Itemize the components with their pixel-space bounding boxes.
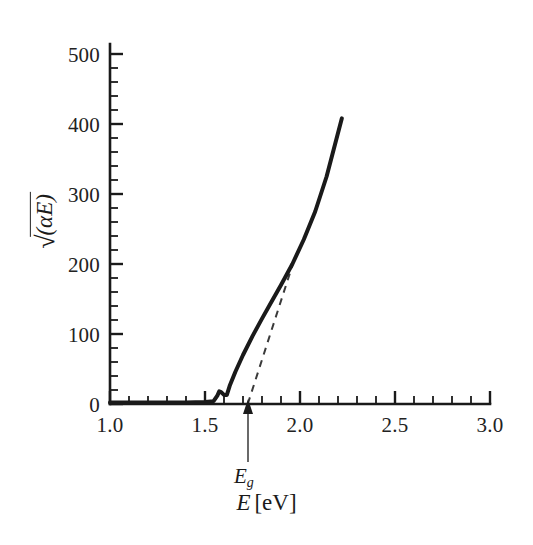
y-tick-label-500: 500 (34, 43, 100, 68)
absorption-curve-line (110, 118, 342, 402)
band-gap-label: Eg (234, 464, 254, 491)
band-gap-arrow (243, 399, 253, 462)
x-axis-title: E[eV] (0, 490, 533, 516)
figure-canvas: 0 100 200 300 400 500 1.0 1.5 2.0 2.5 3.… (0, 0, 533, 545)
x-tick-label-1-0: 1.0 (74, 413, 146, 438)
x-tick-label-2-5: 2.5 (359, 413, 431, 438)
y-axis-title-radicand: (αE) (29, 192, 56, 236)
sqrt-symbol: √(αE) (29, 192, 58, 249)
x-tick-label-3-0: 3.0 (454, 413, 526, 438)
y-axis-title: √(αE) (14, 160, 74, 280)
band-gap-label-subscript: g (247, 475, 254, 490)
x-axis-title-unit: [eV] (254, 490, 296, 515)
band-gap-label-symbol: E (234, 464, 247, 488)
x-tick-label-2-0: 2.0 (264, 413, 336, 438)
y-tick-label-400: 400 (34, 113, 100, 138)
x-tick-label-1-5: 1.5 (169, 413, 241, 438)
x-axis-title-symbol: E (236, 490, 250, 515)
y-tick-label-100: 100 (34, 323, 100, 348)
y-major-ticks (110, 54, 123, 404)
